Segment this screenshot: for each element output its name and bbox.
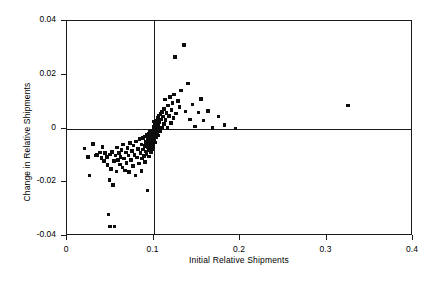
x-axis-tick-label: 0.1: [133, 244, 173, 254]
y-axis-tick-label: 0: [16, 122, 56, 132]
x-axis-tick: [66, 235, 67, 240]
y-axis-tick-label: 0.02: [16, 68, 56, 78]
x-axis-tick: [153, 235, 154, 240]
y-axis-tick: [61, 74, 66, 75]
y-axis-tick: [61, 20, 66, 21]
x-axis-tick: [239, 235, 240, 240]
x-axis-tick-label: 0.3: [306, 244, 346, 254]
x-axis-tick: [326, 235, 327, 240]
x-axis-tick-label: 0.4: [392, 244, 432, 254]
y-axis-title: Change in Relative Shipments: [18, 0, 36, 284]
y-axis-tick-label: -0.02: [16, 175, 56, 185]
x-axis-tick: [412, 235, 413, 240]
axes-layer: 00.10.20.30.4-0.04-0.0200.020.04: [66, 20, 412, 235]
y-axis-tick-label: 0.04: [16, 14, 56, 24]
x-axis-tick-label: 0: [46, 244, 86, 254]
x-axis-title: Initial Relative Shipments: [66, 255, 412, 265]
scatter-chart-figure: Change in Relative Shipments Initial Rel…: [0, 0, 438, 284]
y-axis-tick: [61, 235, 66, 236]
y-axis-tick: [61, 128, 66, 129]
y-axis-tick: [61, 181, 66, 182]
x-axis-tick-label: 0.2: [219, 244, 259, 254]
y-axis-tick-label: -0.04: [16, 229, 56, 239]
